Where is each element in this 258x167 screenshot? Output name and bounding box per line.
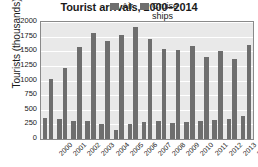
y-tick-1000: 1000 [12, 76, 37, 84]
bar-group-2011 [198, 22, 208, 139]
bar-air-2014 [241, 116, 246, 139]
bar-air-2012 [212, 120, 217, 139]
bar-group-2003 [85, 22, 95, 139]
bar-air-2004 [99, 124, 104, 140]
bar-cruise-ships-2012 [218, 51, 223, 139]
x-tick-2011: 2011 [213, 141, 229, 157]
bar-group-2002 [71, 22, 81, 139]
bar-air-2002 [71, 121, 76, 139]
bar-group-2000 [43, 22, 53, 139]
bar-cruise-ships-2013 [232, 59, 237, 139]
y-tick-750: 750 [12, 90, 37, 98]
bar-air-2009 [170, 123, 175, 139]
x-tick-2005: 2005 [128, 141, 144, 157]
bar-air-2010 [184, 122, 189, 139]
bar-cruise-ships-2011 [204, 57, 209, 139]
x-tick-2010: 2010 [199, 141, 215, 157]
x-tick-2001: 2001 [72, 141, 88, 157]
bars-layer [41, 22, 253, 139]
x-tick-2004: 2004 [114, 141, 130, 157]
bar-air-2005 [114, 130, 119, 139]
y-axis-tick-labels: 200017501500125010007505002500 [12, 21, 37, 140]
bar-cruise-ships-2009 [176, 50, 181, 139]
bar-cruise-ships-2010 [190, 46, 195, 139]
bar-group-2001 [57, 22, 67, 139]
bar-group-2005 [114, 22, 124, 139]
bar-cruise-ships-2004 [105, 41, 110, 139]
chart-container: Tourist arrivals, 2000–2014 Tourists (th… [0, 0, 258, 167]
x-tick-2012: 2012 [227, 141, 243, 157]
x-tick-2006: 2006 [142, 141, 158, 157]
y-tick-1250: 1250 [12, 61, 37, 69]
bar-air-2000 [43, 118, 48, 139]
bar-group-2010 [184, 22, 194, 139]
bar-group-2014 [241, 22, 251, 139]
y-tick-2000: 2000 [12, 17, 37, 25]
legend-swatch-cruise-ships [140, 3, 149, 10]
bar-group-2009 [170, 22, 180, 139]
bar-cruise-ships-2000 [49, 79, 54, 139]
bar-group-2012 [212, 22, 222, 139]
bar-air-2011 [198, 121, 203, 139]
x-tick-2007: 2007 [157, 141, 173, 157]
bar-group-2008 [156, 22, 166, 139]
bar-group-2004 [99, 22, 109, 139]
bar-cruise-ships-2003 [91, 33, 96, 139]
legend-item-cruise-ships: Cruise ships [140, 1, 190, 21]
x-tick-2009: 2009 [185, 141, 201, 157]
bar-cruise-ships-2002 [77, 47, 82, 139]
bar-group-2007 [142, 22, 152, 139]
bar-air-2001 [57, 119, 62, 139]
bar-group-2013 [227, 22, 237, 139]
bar-air-2007 [142, 122, 147, 139]
bar-cruise-ships-2008 [162, 49, 167, 139]
x-tick-2003: 2003 [100, 141, 116, 157]
y-tick-250: 250 [12, 120, 37, 128]
y-tick-0: 0 [12, 134, 37, 142]
bar-air-2006 [128, 124, 133, 140]
x-axis-tick-labels: 2000200120022003200420052006200720082009… [40, 141, 254, 167]
x-tick-2002: 2002 [86, 141, 102, 157]
bar-air-2003 [85, 121, 90, 139]
y-tick-500: 500 [12, 105, 37, 113]
x-tick-2000: 2000 [58, 141, 74, 157]
legend-swatch-air [110, 3, 119, 10]
plot-area [40, 21, 254, 140]
bar-air-2008 [156, 121, 161, 139]
legend-label-air: Air [122, 1, 133, 11]
x-tick-2013: 2013 [241, 141, 257, 157]
bar-cruise-ships-2007 [148, 39, 153, 139]
y-tick-1750: 1750 [12, 32, 37, 40]
bar-group-2006 [128, 22, 138, 139]
x-tick-2008: 2008 [171, 141, 187, 157]
bar-air-2013 [227, 119, 232, 139]
bar-cruise-ships-2005 [119, 35, 124, 139]
bar-cruise-ships-2014 [247, 45, 252, 139]
y-tick-1500: 1500 [12, 47, 37, 55]
bar-cruise-ships-2006 [133, 27, 138, 139]
chart-legend: Air Cruise ships [110, 1, 190, 21]
legend-item-air: Air [110, 1, 133, 11]
bar-cruise-ships-2001 [63, 68, 68, 139]
legend-label-cruise-ships: Cruise ships [152, 1, 190, 21]
